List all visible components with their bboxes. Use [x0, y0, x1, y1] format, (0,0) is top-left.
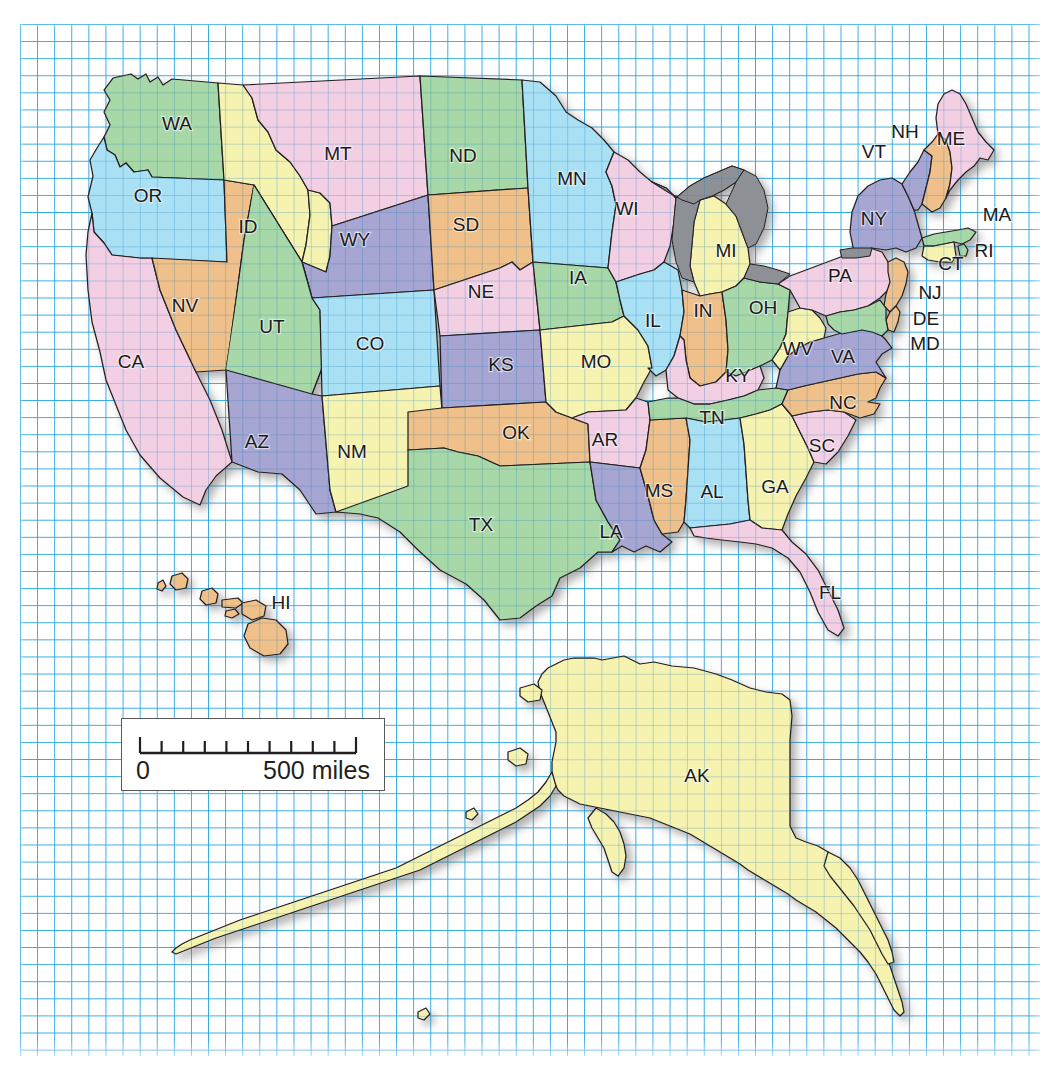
state-label-mo: MO [581, 351, 612, 372]
state-label-ut: UT [259, 316, 285, 337]
state-label-nd: ND [449, 145, 476, 166]
scale-bar-ticks [138, 735, 358, 755]
state-label-ak: AK [684, 765, 710, 786]
state-label-nv: NV [172, 295, 199, 316]
state-label-wi: WI [615, 198, 638, 219]
state-label-ia: IA [569, 267, 587, 288]
state-label-ky: KY [725, 365, 751, 386]
state-label-sc: SC [809, 435, 835, 456]
state-label-mi: MI [715, 240, 736, 261]
state-label-ar: AR [592, 429, 618, 450]
state-label-vt: VT [862, 141, 887, 162]
state-label-ma: MA [983, 204, 1012, 225]
state-label-tn: TN [699, 407, 724, 428]
state-label-de: DE [913, 308, 939, 329]
state-label-ga: GA [761, 476, 789, 497]
state-label-ms: MS [645, 480, 674, 501]
state-label-ks: KS [488, 354, 513, 375]
scale-max-label: 500 miles [263, 756, 370, 785]
state-label-ok: OK [502, 422, 530, 443]
state-label-wv: WV [783, 338, 814, 359]
state-label-id: ID [239, 216, 258, 237]
state-label-va: VA [831, 346, 855, 367]
land-grid-texture [0, 0, 1056, 1069]
us-map-figure: WAORCANVIDMTWYUTAZCONMNDSDNEKSOKTXMNIAMO… [0, 0, 1056, 1069]
state-label-nh: NH [891, 121, 918, 142]
state-label-az: AZ [245, 431, 270, 452]
state-label-co: CO [356, 333, 385, 354]
state-label-me: ME [937, 128, 966, 149]
state-label-tx: TX [469, 514, 494, 535]
state-label-ne: NE [468, 281, 494, 302]
state-label-wy: WY [340, 229, 371, 250]
state-label-nc: NC [829, 392, 856, 413]
scale-bar-labels: 0 500 miles [122, 755, 384, 785]
state-label-al: AL [700, 481, 723, 502]
state-label-fl: FL [819, 582, 841, 603]
state-label-nj: NJ [918, 282, 941, 303]
state-label-md: MD [910, 333, 940, 354]
scale-bar: 0 500 miles [121, 718, 385, 791]
state-label-wa: WA [162, 113, 192, 134]
scale-min-label: 0 [136, 756, 150, 785]
state-label-mt: MT [324, 143, 352, 164]
state-label-la: LA [599, 521, 623, 542]
state-label-or: OR [134, 185, 163, 206]
state-label-nm: NM [337, 441, 367, 462]
us-states-svg: WAORCANVIDMTWYUTAZCONMNDSDNEKSOKTXMNIAMO… [0, 0, 1056, 1069]
state-label-ca: CA [118, 351, 145, 372]
state-label-hi: HI [272, 592, 291, 613]
state-label-il: IL [645, 310, 661, 331]
state-label-mn: MN [557, 168, 587, 189]
state-label-sd: SD [453, 214, 479, 235]
state-label-ny: NY [861, 208, 888, 229]
state-label-ri: RI [975, 240, 994, 261]
state-label-pa: PA [828, 265, 852, 286]
state-label-in: IN [694, 300, 713, 321]
state-label-ct: CT [938, 253, 964, 274]
state-label-oh: OH [749, 297, 778, 318]
